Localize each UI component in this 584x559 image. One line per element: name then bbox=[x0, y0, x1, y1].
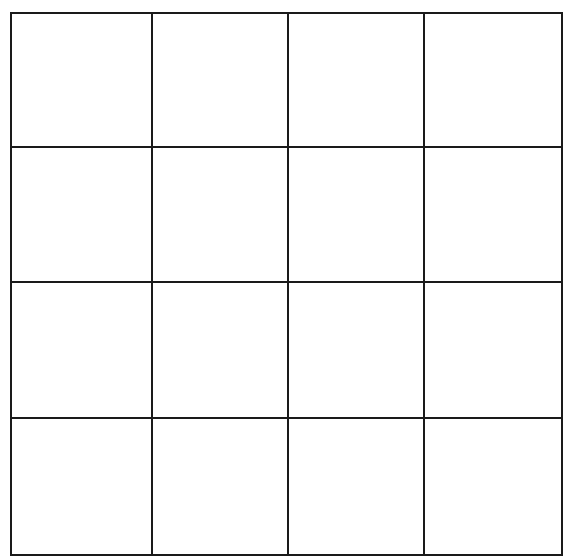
grid-cell-r2-c4 bbox=[424, 147, 562, 282]
grid-lines bbox=[0, 0, 584, 559]
grid-cell-r2-c1 bbox=[11, 147, 152, 282]
grid-cell-r1-c4 bbox=[424, 13, 562, 147]
grid-cell-r4-c2 bbox=[152, 418, 288, 555]
grid-cell-r3-c3 bbox=[288, 282, 424, 418]
grid-cell-r4-c1 bbox=[11, 418, 152, 555]
grid-cell-r1-c3 bbox=[288, 13, 424, 147]
grid-cell-r3-c4 bbox=[424, 282, 562, 418]
grid-diagram bbox=[0, 0, 584, 559]
grid-cell-r3-c2 bbox=[152, 282, 288, 418]
grid-cell-r2-c3 bbox=[288, 147, 424, 282]
grid-cell-r3-c1 bbox=[11, 282, 152, 418]
grid-cell-r4-c4 bbox=[424, 418, 562, 555]
grid-cell-r1-c2 bbox=[152, 13, 288, 147]
grid-cell-r2-c2 bbox=[152, 147, 288, 282]
grid-cell-r1-c1 bbox=[11, 13, 152, 147]
grid-cell-r4-c3 bbox=[288, 418, 424, 555]
